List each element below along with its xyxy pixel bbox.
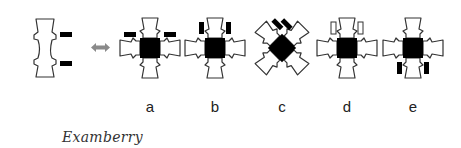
option-b-label: b [205,98,225,115]
diagram-canvas: a b c d e Examberry [0,0,461,148]
option-d-label: d [337,98,357,115]
double-arrow-icon [91,43,110,52]
option-a-label: a [140,98,160,115]
single-piece [34,19,72,77]
watermark: Examberry [62,129,143,145]
option-e-label: e [403,98,423,115]
option-a-figure [120,18,180,78]
option-e-figure [383,18,443,78]
option-c-figure [240,6,325,91]
option-d-figure [317,18,377,78]
option-c-label: c [272,98,292,115]
bar-top [60,32,72,37]
option-b-figure [185,18,245,78]
bar-bottom [60,61,72,66]
